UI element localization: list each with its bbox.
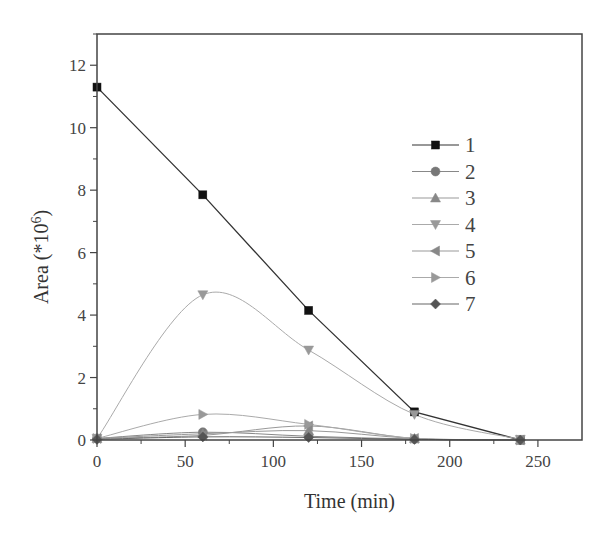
legend-item-2: 2 <box>412 160 476 184</box>
legend-label: 4 <box>465 213 476 237</box>
legend-label: 3 <box>465 186 476 210</box>
y-tick-label: 2 <box>78 369 87 388</box>
legend-item-4: 4 <box>412 213 476 237</box>
legend-label: 7 <box>465 292 476 316</box>
y-axis-title-exponent: 6 <box>29 217 44 224</box>
x-tick-label: 0 <box>93 452 102 471</box>
plot-frame <box>97 34 582 440</box>
legend-square-marker-icon <box>432 141 440 149</box>
chart-figure: 050100150200250 024681012 Time (min) Are… <box>0 0 615 535</box>
series-6-triangle-right-marker-icon <box>199 409 208 419</box>
x-tick-label: 50 <box>177 452 194 471</box>
series-4-triangle-down-marker-icon <box>198 291 208 300</box>
x-tick-label: 250 <box>525 452 551 471</box>
legend-item-3: 3 <box>412 186 476 210</box>
legend-item-1: 1 <box>412 133 476 157</box>
series-1-square-marker-icon <box>199 191 207 199</box>
y-axis-title-close: ) <box>30 210 53 217</box>
y-tick-label: 0 <box>78 431 87 450</box>
x-axis: 050100150200250 <box>93 440 551 471</box>
legend-circle-marker-icon <box>431 167 440 176</box>
y-tick-label: 10 <box>69 119 86 138</box>
legend-diamond-marker-icon <box>431 299 441 309</box>
x-axis-title: Time (min) <box>304 490 395 513</box>
legend-triangle-right-marker-icon <box>432 273 441 283</box>
y-tick-label: 12 <box>69 56 86 75</box>
x-tick-label: 200 <box>437 452 463 471</box>
legend-item-5: 5 <box>412 239 476 263</box>
legend-item-7: 7 <box>412 292 476 316</box>
legend-label: 1 <box>465 133 476 157</box>
y-axis-title: Area (*106) <box>29 210 54 304</box>
legend-label: 6 <box>465 266 476 290</box>
y-tick-label: 6 <box>78 244 87 263</box>
series-4-triangle-down-marker-icon <box>304 346 314 355</box>
y-axis: 024681012 <box>69 34 97 450</box>
y-tick-label: 4 <box>78 306 87 325</box>
x-tick-label: 150 <box>349 452 375 471</box>
legend-item-6: 6 <box>412 266 476 290</box>
series-1-line <box>97 87 520 440</box>
legend: 1234567 <box>412 133 476 316</box>
y-tick-label: 8 <box>78 181 87 200</box>
x-tick-label: 100 <box>261 452 287 471</box>
legend-label: 5 <box>465 239 476 263</box>
series-1-square-marker-icon <box>305 306 313 314</box>
y-axis-title-base: Area (*10 <box>30 224 53 305</box>
legend-triangle-left-marker-icon <box>431 246 440 256</box>
data-series-group <box>97 87 520 440</box>
legend-label: 2 <box>465 160 476 184</box>
data-markers-group <box>92 83 525 445</box>
